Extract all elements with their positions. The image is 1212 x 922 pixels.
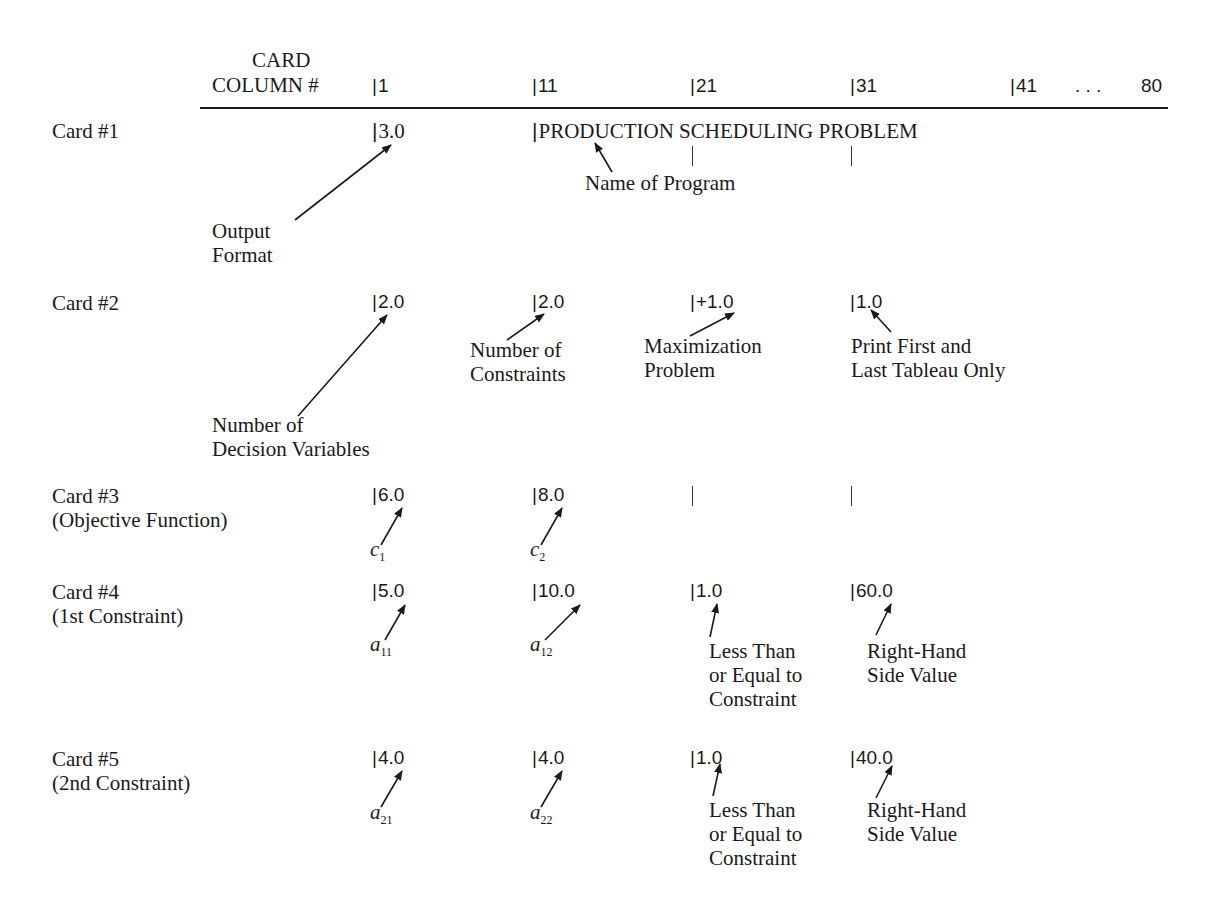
card-5-constraint-type-annotation-line1: Less Than (709, 798, 796, 822)
card-1-program-name-value: PRODUCTION SCHEDULING PROBLEM (532, 119, 918, 143)
card-3-tick-21 (692, 486, 693, 506)
card-2-constraints-annotation-line1: Number of (470, 338, 562, 362)
column-marker-11: 11 (532, 75, 558, 97)
arrow-rhs-4 (876, 604, 891, 635)
card-4-constraint-type-value: 1.0 (690, 580, 722, 602)
column-ellipsis: . . . (1075, 75, 1101, 97)
column-marker-80: 80 (1141, 75, 1162, 97)
card-4-label: Card #4 (52, 580, 119, 604)
arrow-print-option (871, 310, 891, 332)
column-marker-1: 1 (372, 75, 389, 97)
arrow-rhs-5 (876, 766, 892, 798)
card-1-output-format-annotation-line2: Format (212, 243, 273, 267)
card-4-a12-value: 10.0 (532, 580, 575, 602)
card-2-print-option-value: 1.0 (850, 291, 882, 313)
card-4-rhs-annotation-line1: Right-Hand (867, 639, 966, 663)
card-4-sublabel: (1st Constraint) (52, 604, 183, 628)
card-3-c2-annotation: c2 (530, 537, 545, 565)
card-1-output-format-annotation-line1: Output (212, 219, 270, 243)
card-5-constraint-type-value: 1.0 (690, 747, 722, 769)
card-3-c2-value: 8.0 (532, 484, 564, 506)
card-2-maximization-annotation-line2: Problem (644, 358, 715, 382)
card-4-constraint-type-annotation-line3: Constraint (709, 687, 797, 711)
card-header-label: CARD (252, 48, 310, 72)
card-5-a21-value: 4.0 (372, 747, 404, 769)
card-2-label: Card #2 (52, 291, 119, 315)
card-4-a11-annotation: a11 (370, 632, 392, 660)
card-2-print-annotation-line2: Last Tableau Only (851, 358, 1005, 382)
card-4-a12-annotation: a12 (530, 632, 553, 660)
card-5-a22-value: 4.0 (532, 747, 564, 769)
card-4-rhs-annotation-line2: Side Value (867, 663, 957, 687)
card-5-constraint-type-annotation-line3: Constraint (709, 846, 797, 870)
card-1-label: Card #1 (52, 119, 119, 143)
arrow-constraint-type-4 (710, 604, 717, 637)
card-5-a22-annotation: a22 (530, 800, 553, 828)
card-3-tick-31 (851, 486, 852, 506)
card-4-constraint-type-annotation-line2: or Equal to (709, 663, 802, 687)
card-5-rhs-annotation-line2: Side Value (867, 822, 957, 846)
column-marker-21: 21 (690, 75, 717, 97)
card-1-program-name-annotation: Name of Program (585, 171, 735, 195)
column-header-label: COLUMN # (212, 73, 319, 97)
arrow-decision-variables (298, 315, 387, 416)
card-2-decision-variables-value: 2.0 (372, 291, 404, 313)
card-3-c1-annotation: c1 (370, 537, 385, 565)
card-3-label: Card #3 (52, 484, 119, 508)
card-1-output-format-value: 3.0 (372, 119, 405, 143)
arrow-program-name (595, 143, 612, 172)
card-3-sublabel: (Objective Function) (52, 508, 228, 532)
card-5-rhs-value: 40.0 (850, 747, 893, 769)
column-marker-41: 41 (1010, 75, 1037, 97)
card-2-maximization-annotation-line1: Maximization (644, 334, 762, 358)
card-2-constraints-value: 2.0 (532, 291, 564, 313)
card-5-rhs-annotation-line1: Right-Hand (867, 798, 966, 822)
card-1-tick-31 (851, 146, 852, 166)
header-rule (200, 107, 1168, 109)
card-2-print-annotation-line1: Print First and (851, 334, 971, 358)
card-2-decision-variables-annotation-line2: Decision Variables (212, 437, 370, 461)
card-4-rhs-value: 60.0 (850, 580, 893, 602)
card-5-constraint-type-annotation-line2: or Equal to (709, 822, 802, 846)
card-2-constraints-annotation-line2: Constraints (470, 362, 566, 386)
card-5-sublabel: (2nd Constraint) (52, 771, 190, 795)
card-1-tick-21 (692, 146, 693, 166)
column-marker-31: 31 (850, 75, 877, 97)
arrow-output-format (295, 145, 391, 220)
card-5-label: Card #5 (52, 747, 119, 771)
card-2-maximization-value: +1.0 (690, 291, 733, 313)
arrow-constraints (507, 314, 544, 340)
card-2-decision-variables-annotation-line1: Number of (212, 413, 304, 437)
card-4-constraint-type-annotation-line1: Less Than (709, 639, 796, 663)
card-3-c1-value: 6.0 (372, 484, 404, 506)
card-5-a21-annotation: a21 (370, 800, 393, 828)
card-4-a11-value: 5.0 (372, 580, 404, 602)
arrow-maximization (690, 313, 734, 336)
